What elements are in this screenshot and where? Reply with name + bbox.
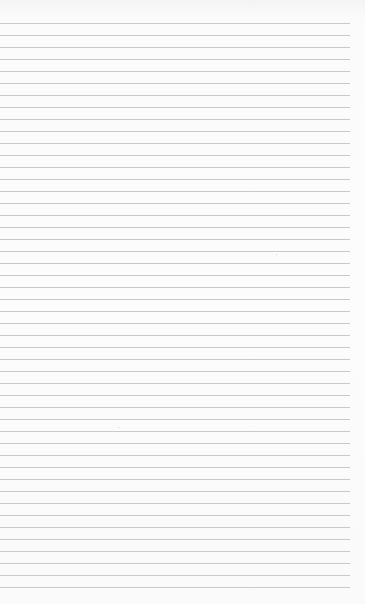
ruled-line [0, 107, 350, 108]
ruled-line [0, 251, 350, 252]
ruled-line [0, 95, 350, 96]
ruled-line [0, 503, 350, 504]
ruled-line [0, 263, 350, 264]
ruled-line [0, 155, 350, 156]
ruled-line [0, 431, 350, 432]
ruled-line [0, 455, 350, 456]
ruled-line [0, 23, 350, 24]
ruled-line [0, 239, 350, 240]
ruled-line [0, 143, 350, 144]
ruled-line [0, 539, 350, 540]
paper-speck [118, 427, 119, 428]
ruled-line [0, 47, 350, 48]
ruled-line [0, 575, 350, 576]
ruled-line [0, 359, 350, 360]
ruled-line [0, 167, 350, 168]
ruled-line [0, 299, 350, 300]
ruled-line [0, 479, 350, 480]
ruled-line [0, 491, 350, 492]
ruled-line [0, 383, 350, 384]
ruled-line [0, 515, 350, 516]
ruled-line [0, 311, 350, 312]
ruled-line [0, 203, 350, 204]
ruled-line [0, 119, 350, 120]
ruled-paper-sheet [0, 0, 365, 604]
ruled-line [0, 395, 350, 396]
ruled-line [0, 59, 350, 60]
ruled-line [0, 347, 350, 348]
ruled-line [0, 467, 350, 468]
ruled-line [0, 227, 350, 228]
ruled-line [0, 563, 350, 564]
ruled-line [0, 131, 350, 132]
ruled-line [0, 443, 350, 444]
ruled-line [0, 179, 350, 180]
ruled-line [0, 551, 350, 552]
ruled-line [0, 323, 350, 324]
ruled-line [0, 587, 350, 588]
ruled-line [0, 215, 350, 216]
ruled-line [0, 371, 350, 372]
ruled-line [0, 191, 350, 192]
ruled-line [0, 35, 350, 36]
ruled-line [0, 83, 350, 84]
ruled-line [0, 275, 350, 276]
paper-speck [276, 254, 277, 255]
ruled-line [0, 527, 350, 528]
ruled-line [0, 335, 350, 336]
ruled-line [0, 407, 350, 408]
ruled-line [0, 287, 350, 288]
ruled-line [0, 419, 350, 420]
ruled-line [0, 71, 350, 72]
